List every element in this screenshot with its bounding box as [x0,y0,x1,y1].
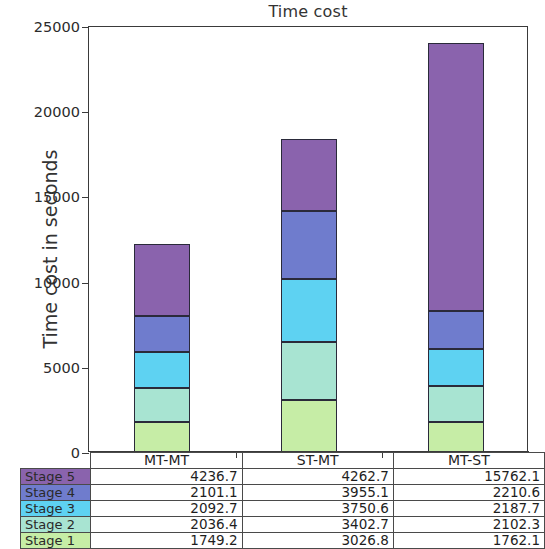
table-header-row: MT-MTST-MTMT-ST [21,453,545,469]
bar-segment-stage-3[interactable] [134,352,190,388]
table-cell: 3955.1 [242,485,393,501]
table-row: Stage 42101.13955.12210.6 [21,485,545,501]
table-head: MT-MTST-MTMT-ST [21,453,545,469]
table-cell: 2101.1 [91,485,242,501]
y-tick-mark [82,112,89,113]
y-tick-label: 5000 [43,360,80,376]
table-row: Stage 11749.23026.81762.1 [21,533,545,549]
y-tick-label: 20000 [34,104,80,120]
table-cell: 15762.1 [393,469,544,485]
y-tick-mark [82,368,89,369]
table-cell: 2187.7 [393,501,544,517]
legend-swatch-stage-1: Stage 1 [21,533,91,549]
table-row: Stage 32092.73750.62187.7 [21,501,545,517]
plot-area: 0500010000150002000025000 [88,26,528,452]
right-axis-spine [527,26,528,452]
bar-stack-mt-mt[interactable] [134,26,190,452]
data-table: MT-MTST-MTMT-ST Stage 54236.74262.715762… [20,452,545,549]
bar-segment-stage-3[interactable] [428,349,484,386]
bar-segment-stage-4[interactable] [281,211,337,278]
table-cell: 2092.7 [91,501,242,517]
table-cell: 3026.8 [242,533,393,549]
bar-segment-stage-5[interactable] [281,139,337,212]
table-cell: 1749.2 [91,533,242,549]
y-tick-label: 10000 [34,275,80,291]
bar-segment-stage-4[interactable] [428,311,484,349]
bar-segment-stage-5[interactable] [428,43,484,312]
bar-segment-stage-3[interactable] [281,279,337,343]
table-cell: 2102.3 [393,517,544,533]
table-column-header-mt-st: MT-ST [393,453,544,469]
legend-swatch-stage-3: Stage 3 [21,501,91,517]
table-column-header-mt-mt: MT-MT [91,453,242,469]
y-tick-mark [82,197,89,198]
table-cell: 3402.7 [242,517,393,533]
table-cell: 4262.7 [242,469,393,485]
table-body: Stage 54236.74262.715762.1Stage 42101.13… [21,469,545,549]
table-cell: 2210.6 [393,485,544,501]
table-corner-cell [21,453,91,469]
bar-segment-stage-1[interactable] [134,422,190,452]
y-tick-label: 25000 [34,19,80,35]
bar-segment-stage-2[interactable] [134,388,190,423]
bar-segment-stage-4[interactable] [134,316,190,352]
legend-swatch-stage-5: Stage 5 [21,469,91,485]
bar-stack-st-mt[interactable] [281,26,337,452]
legend-swatch-stage-2: Stage 2 [21,517,91,533]
chart-title: Time cost [88,2,528,21]
table-cell: 4236.7 [91,469,242,485]
table-column-header-st-mt: ST-MT [242,453,393,469]
bar-stack-mt-st[interactable] [428,26,484,452]
legend-swatch-stage-4: Stage 4 [21,485,91,501]
bar-segment-stage-1[interactable] [281,400,337,452]
bar-segment-stage-2[interactable] [428,386,484,422]
table-row: Stage 54236.74262.715762.1 [21,469,545,485]
table-cell: 2036.4 [91,517,242,533]
table-cell: 1762.1 [393,533,544,549]
y-tick-mark [82,27,89,28]
bar-segment-stage-2[interactable] [281,342,337,400]
y-tick-mark [82,283,89,284]
table-row: Stage 22036.43402.72102.3 [21,517,545,533]
table-cell: 3750.6 [242,501,393,517]
bar-segment-stage-5[interactable] [134,244,190,316]
bar-segment-stage-1[interactable] [428,422,484,452]
y-tick-label: 15000 [34,189,80,205]
